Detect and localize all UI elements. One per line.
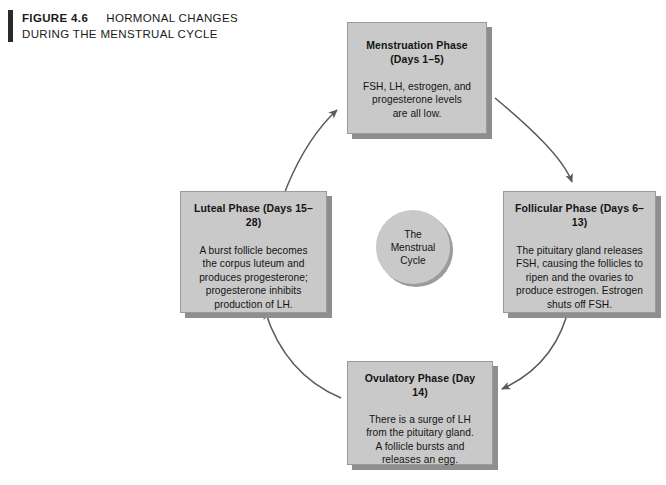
phase-box-follicular[interactable]: Follicular Phase (Days 6–13) The pituita… xyxy=(503,191,656,313)
phase-box-luteal[interactable]: Luteal Phase (Days 15–28) A burst follic… xyxy=(180,191,327,313)
phase-body-menstruation: FSH, LH, estrogen, and progesterone leve… xyxy=(358,80,476,120)
arrow-follicular-to-ovulatory xyxy=(502,303,570,389)
phase-body-luteal: A burst follicle becomes the corpus lute… xyxy=(190,244,317,311)
phase-title-ovulatory: Ovulatory Phase (Day 14) xyxy=(357,372,483,399)
arrow-ovulatory-to-luteal xyxy=(265,311,341,398)
phase-title-menstruation: Menstruation Phase (Days 1–5) xyxy=(358,39,476,66)
menstrual-cycle-diagram: Menstruation Phase (Days 1–5) FSH, LH, e… xyxy=(0,0,666,485)
phase-box-ovulatory[interactable]: Ovulatory Phase (Day 14) There is a surg… xyxy=(347,361,493,465)
arrow-menstruation-to-follicular xyxy=(495,98,572,182)
phase-body-follicular: The pituitary gland releases FSH, causin… xyxy=(513,244,646,311)
phase-title-luteal: Luteal Phase (Days 15–28) xyxy=(190,202,317,229)
phase-body-ovulatory: There is a surge of LH from the pituitar… xyxy=(357,413,483,467)
cycle-center-label: The Menstrual Cycle xyxy=(391,228,436,267)
cycle-center-hub: The Menstrual Cycle xyxy=(376,210,450,284)
phase-title-follicular: Follicular Phase (Days 6–13) xyxy=(513,202,646,229)
phase-box-menstruation[interactable]: Menstruation Phase (Days 1–5) FSH, LH, e… xyxy=(347,22,487,134)
